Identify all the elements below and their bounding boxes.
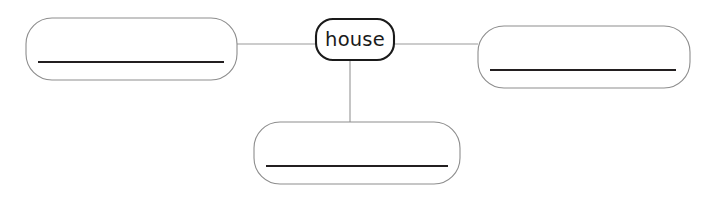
- center-node-house[interactable]: house: [316, 19, 394, 60]
- blank-node-left-outline[interactable]: [26, 18, 237, 80]
- center-node-label: house: [325, 28, 385, 51]
- concept-map-diagram: house: [0, 0, 715, 200]
- blank-node-left[interactable]: [26, 18, 237, 80]
- blank-node-right-outline[interactable]: [478, 26, 690, 88]
- blank-node-right[interactable]: [478, 26, 690, 88]
- blank-node-bottom[interactable]: [254, 122, 460, 184]
- concept-map-canvas: house: [0, 0, 715, 200]
- blank-node-bottom-outline[interactable]: [254, 122, 460, 184]
